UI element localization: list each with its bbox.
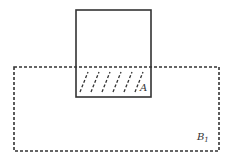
label-b1: B1 [196, 131, 209, 144]
label-a: A [139, 82, 147, 93]
hatch-region-a [80, 72, 143, 92]
label-b1-subscript: 1 [204, 136, 208, 144]
label-b1-main: B [196, 131, 204, 142]
dashed-rectangle-b1 [14, 67, 219, 151]
diagram-canvas: A B1 [0, 0, 230, 159]
